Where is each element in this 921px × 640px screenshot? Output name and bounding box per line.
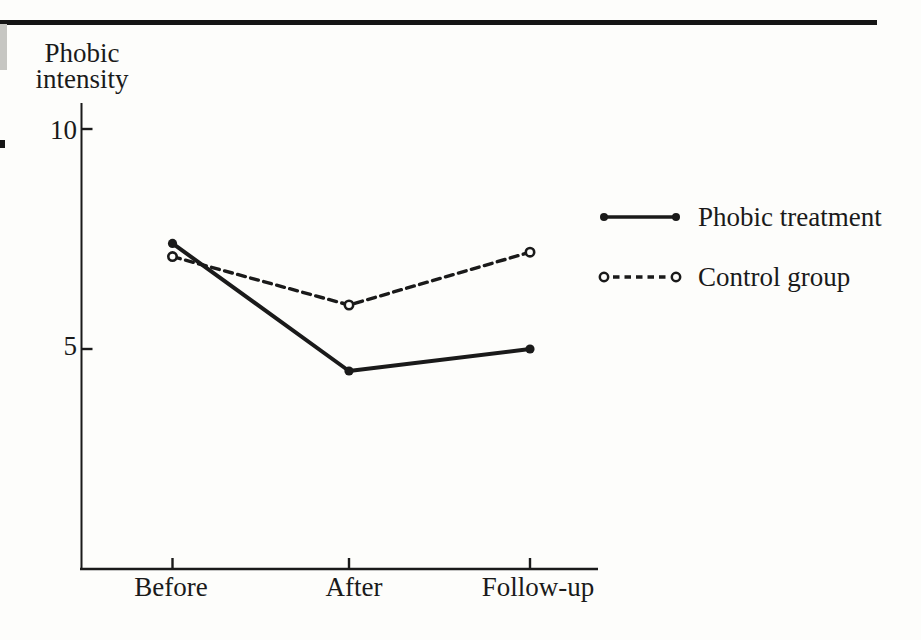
legend-marker-open-right <box>672 273 680 281</box>
legend: Phobic treatment Control group <box>598 200 882 320</box>
figure-page: Phobic intensity 10 5 Before After Follo… <box>0 0 921 640</box>
legend-label-control-group: Control group <box>698 264 850 291</box>
legend-item-control-group: Control group <box>598 260 882 294</box>
legend-marker-filled-left <box>600 213 608 221</box>
legend-label-phobic-treatment: Phobic treatment <box>698 204 882 231</box>
marker-control-group-follow-up <box>526 248 534 256</box>
legend-marker-filled-right <box>672 213 680 221</box>
series-line-control-group <box>173 252 531 305</box>
legend-item-phobic-treatment: Phobic treatment <box>598 200 882 234</box>
chart-canvas <box>0 0 921 640</box>
x-axis-label-after: After <box>284 574 424 601</box>
marker-phobic-treatment-before <box>168 239 177 248</box>
legend-sample-solid-line <box>598 200 684 234</box>
marker-control-group-before <box>168 252 176 260</box>
x-axis-label-follow-up: Follow-up <box>468 574 608 601</box>
marker-phobic-treatment-after <box>344 366 353 375</box>
x-axis-label-before: Before <box>101 574 241 601</box>
legend-sample-dashed-line <box>598 260 684 294</box>
marker-control-group-after <box>345 301 353 309</box>
marker-phobic-treatment-follow-up <box>525 344 534 353</box>
legend-marker-open-left <box>600 273 608 281</box>
